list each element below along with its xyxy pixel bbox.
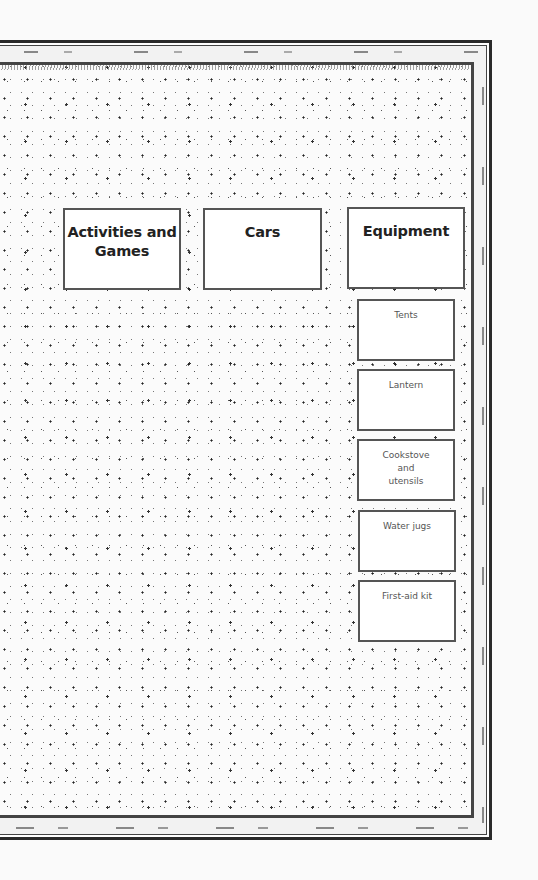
board-top-shadow <box>0 65 471 70</box>
category-card-cars[interactable]: Cars <box>203 208 322 290</box>
equipment-item-card-tents[interactable]: Tents <box>357 299 455 361</box>
equipment-item-card-first-aid-kit[interactable]: First-aid kit <box>358 580 456 642</box>
item-label: Cookstove and utensils <box>382 450 429 486</box>
category-label: Equipment <box>363 223 449 239</box>
item-label: Tents <box>394 310 417 320</box>
category-label: Cars <box>245 224 280 240</box>
frame-wood-grain-bottom <box>0 827 485 829</box>
equipment-item-card-cookstove[interactable]: Cookstove and utensils <box>357 439 455 501</box>
equipment-item-card-water-jugs[interactable]: Water jugs <box>358 510 456 572</box>
category-label: Activities and Games <box>67 224 176 259</box>
equipment-item-card-lantern[interactable]: Lantern <box>357 369 455 431</box>
item-label: First-aid kit <box>382 591 432 601</box>
category-card-activities-and-games[interactable]: Activities and Games <box>63 208 181 290</box>
category-card-equipment[interactable]: Equipment <box>347 207 465 289</box>
item-label: Lantern <box>389 380 424 390</box>
frame-wood-grain-top <box>0 51 485 53</box>
item-label: Water jugs <box>383 521 431 531</box>
frame-wood-grain-right <box>482 57 484 823</box>
